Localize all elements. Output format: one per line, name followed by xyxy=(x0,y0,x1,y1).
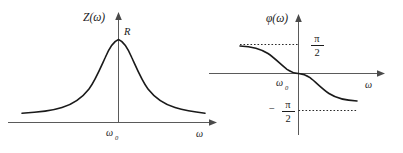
phase-origin-tick-omega: ω xyxy=(276,77,283,88)
phase-x-axis-label: ω xyxy=(365,79,372,90)
impedance-y-axis-label: Z(ω) xyxy=(83,11,105,24)
figure-root: Z(ω) R ω 0 ω φ( xyxy=(0,0,403,153)
phase-upper-asymptote-denominator: 2 xyxy=(314,47,319,58)
impedance-origin-tick-omega: ω xyxy=(106,127,113,138)
impedance-panel: Z(ω) R ω 0 ω xyxy=(8,11,217,141)
impedance-x-axis-label: ω xyxy=(196,128,203,139)
phase-upper-asymptote-label: π 2 xyxy=(311,33,324,58)
impedance-x-axis-arrowhead xyxy=(209,119,217,126)
impedance-origin-tick-label: ω 0 xyxy=(106,127,119,141)
phase-upper-asymptote-numerator: π xyxy=(314,33,320,44)
phase-panel: φ(ω) π 2 − π 2 ω 0 ω xyxy=(209,12,385,135)
impedance-y-axis-arrowhead xyxy=(115,12,122,20)
phase-y-axis-label: φ(ω) xyxy=(266,12,288,25)
impedance-peak-label: R xyxy=(123,26,131,37)
phase-y-axis-arrowhead xyxy=(295,14,302,22)
impedance-resonance-curve xyxy=(22,40,205,114)
phase-lower-asymptote-numerator: π xyxy=(285,99,291,110)
phase-lower-asymptote-denominator: 2 xyxy=(285,113,290,124)
phase-origin-tick-label: ω 0 xyxy=(276,77,289,91)
phase-lower-asymptote-sign: − xyxy=(269,103,275,114)
impedance-origin-tick-subscript: 0 xyxy=(115,134,119,141)
phase-lower-asymptote-label: − π 2 xyxy=(269,99,295,124)
phase-x-axis-arrowhead xyxy=(377,70,385,77)
figure-canvas: Z(ω) R ω 0 ω φ( xyxy=(0,0,403,153)
phase-origin-tick-subscript: 0 xyxy=(285,84,289,91)
